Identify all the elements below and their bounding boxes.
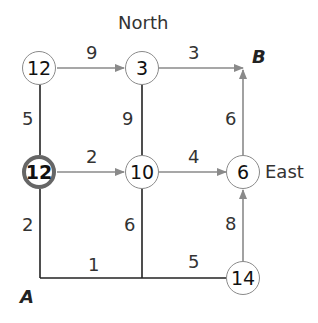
node-mid-mid: 10 <box>125 155 159 189</box>
node-top-left: 12 <box>22 51 56 85</box>
endpoint-a-label: A <box>20 288 34 306</box>
edge-weight: 1 <box>88 256 99 274</box>
node-bot-right: 14 <box>226 261 260 295</box>
edge-weight: 2 <box>22 216 33 234</box>
edge-weight: 4 <box>188 148 199 166</box>
north-label: North <box>118 14 168 32</box>
edge-weight: 6 <box>225 110 236 128</box>
east-label: East <box>265 163 304 181</box>
edge-weight: 9 <box>122 110 133 128</box>
edge-weight: 5 <box>188 253 199 271</box>
endpoint-b-label: B <box>252 48 266 66</box>
edge-weight: 6 <box>124 216 135 234</box>
edge-weight: 9 <box>86 44 97 62</box>
node-top-mid: 3 <box>125 51 159 85</box>
node-mid-left-highlighted: 12 <box>22 155 56 189</box>
edge-weight: 2 <box>86 148 97 166</box>
node-mid-right: 6 <box>226 155 260 189</box>
edge-weight: 8 <box>225 215 236 233</box>
edge-weight: 5 <box>22 110 33 128</box>
edge-weight: 3 <box>188 44 199 62</box>
